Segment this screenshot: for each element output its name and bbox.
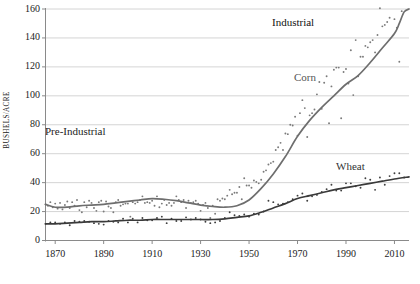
y-tick-label: 40 — [10, 177, 40, 187]
x-tick-label: 1930 — [179, 249, 223, 259]
x-tick-label: 1990 — [324, 249, 368, 259]
series-label-wheat: Wheat — [336, 161, 365, 172]
x-tick-label: 1970 — [276, 249, 320, 259]
annotation-pre-industrial: Pre-Industrial — [45, 126, 105, 137]
y-tick-label: 60 — [10, 148, 40, 158]
chart-figure: BUSHELS/ACRE 020406080100120140160 18701… — [0, 0, 420, 284]
x-tick-label: 1870 — [33, 249, 77, 259]
x-tick-label: 1910 — [130, 249, 174, 259]
y-tick-label: 120 — [10, 61, 40, 71]
y-tick-label: 0 — [10, 235, 40, 245]
x-tick-label: 1950 — [227, 249, 271, 259]
y-tick-label: 160 — [10, 4, 40, 14]
trend-line-wheat — [46, 177, 410, 224]
trend-line-corn — [46, 9, 410, 207]
y-tick-label: 80 — [10, 119, 40, 129]
annotation-industrial: Industrial — [272, 17, 314, 28]
y-tick-label: 20 — [10, 206, 40, 216]
series-label-corn: Corn — [294, 72, 316, 83]
y-tick-label: 140 — [10, 32, 40, 42]
chart-canvas — [0, 0, 420, 284]
y-tick-label: 100 — [10, 90, 40, 100]
x-tick-label: 1890 — [82, 249, 126, 259]
x-tick-label: 2010 — [372, 249, 416, 259]
